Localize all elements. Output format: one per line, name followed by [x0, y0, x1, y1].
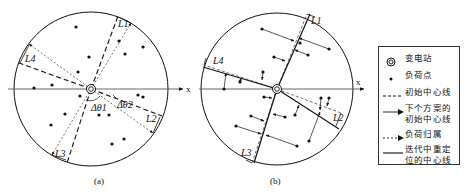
solid-arrow-icon	[383, 103, 405, 115]
substation-icon	[383, 53, 405, 65]
line-label-l3: L3	[240, 147, 252, 158]
line-label-l2: L2	[145, 113, 157, 124]
angle-label-1: Δθ1	[90, 102, 107, 113]
x-axis-label: x	[356, 77, 361, 87]
substation-icon	[273, 85, 282, 94]
line-label-l4: L4	[24, 53, 36, 64]
dashed-line-icon	[383, 87, 405, 99]
panel-caption-a: (a)	[94, 176, 104, 186]
line-label-l1: L1	[310, 15, 322, 26]
legend-item-initial-center-line: 初始中心线	[379, 87, 459, 99]
line-label-l3: L3	[54, 148, 66, 159]
x-axis-label: x	[186, 84, 191, 94]
legend-item-substation: 变电站	[379, 53, 459, 65]
panel-a: x L1 L2 L3 L4 Δθ1 Δθ2	[8, 12, 191, 186]
load-point-icon	[383, 70, 405, 82]
panel-caption-b: (b)	[270, 176, 281, 186]
line-label-l4: L4	[212, 55, 224, 66]
line-label-l2: L2	[332, 112, 344, 123]
legend-item-load-attribution: 负荷归属	[379, 129, 459, 141]
legend-item-next-scheme-line: 下个方案的 初始中心线	[379, 103, 459, 125]
legend: 变电站 负荷点 初始中心线 下个方案的 初始中心线 负荷归属 迭代中重定 位的中…	[378, 46, 460, 165]
line-label-l1: L1	[117, 18, 129, 29]
solid-line-icon	[383, 144, 405, 156]
legend-item-load-point: 负荷点	[379, 70, 459, 82]
dotted-arrow-icon	[383, 129, 405, 141]
panel-b: x	[199, 13, 364, 186]
substation-icon	[87, 85, 96, 94]
legend-item-repositioned-line: 迭代中重定 位的中心线	[379, 144, 459, 166]
angle-label-2: Δθ2	[116, 99, 133, 110]
